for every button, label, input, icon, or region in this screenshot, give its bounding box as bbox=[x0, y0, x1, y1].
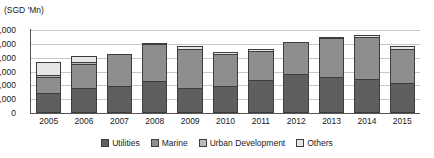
bar-segment-marine[interactable] bbox=[142, 44, 167, 80]
legend-item-others[interactable]: Others bbox=[296, 138, 333, 148]
bar-group[interactable] bbox=[248, 49, 273, 113]
x-tick-label: 2012 bbox=[279, 115, 314, 127]
bar-segment-marine[interactable] bbox=[354, 37, 379, 79]
y-tick-label: 4,000 bbox=[0, 81, 16, 90]
y-tick-label: 6,000 bbox=[0, 68, 16, 77]
x-axis-ticks: 2005200620072008200920102011201220132014… bbox=[31, 115, 420, 129]
bar-segment-others[interactable] bbox=[36, 62, 61, 74]
legend-swatch-icon bbox=[101, 139, 109, 147]
legend-item-marine[interactable]: Marine bbox=[151, 138, 188, 148]
bar-segment-marine[interactable] bbox=[283, 42, 308, 74]
bar-segment-marine[interactable] bbox=[390, 49, 415, 84]
x-tick-label: 2006 bbox=[66, 115, 101, 127]
bar-segment-marine[interactable] bbox=[71, 64, 96, 88]
plot-area bbox=[31, 30, 420, 113]
x-tick-label: 2009 bbox=[172, 115, 207, 127]
bar-segment-utilities[interactable] bbox=[71, 88, 96, 113]
x-tick-label: 2005 bbox=[31, 115, 66, 127]
bar-segment-marine[interactable] bbox=[248, 51, 273, 80]
legend-label: Urban Development bbox=[210, 138, 286, 148]
bar-segment-utilities[interactable] bbox=[177, 88, 202, 113]
bar-segment-marine[interactable] bbox=[319, 38, 344, 77]
bar-segment-utilities[interactable] bbox=[142, 81, 167, 114]
bar-group[interactable] bbox=[71, 56, 96, 113]
bar-segment-utilities[interactable] bbox=[213, 86, 238, 113]
bars-layer bbox=[31, 30, 420, 113]
bar-segment-utilities[interactable] bbox=[390, 83, 415, 113]
bar-segment-marine[interactable] bbox=[36, 77, 61, 94]
bar-segment-utilities[interactable] bbox=[107, 86, 132, 113]
bar-segment-utilities[interactable] bbox=[283, 74, 308, 113]
y-tick-label: 2,000 bbox=[0, 95, 16, 104]
bar-segment-marine[interactable] bbox=[107, 54, 132, 87]
y-axis-unit-label: (SGD 'Mn) bbox=[4, 5, 44, 15]
bar-group[interactable] bbox=[36, 62, 61, 113]
bar-segment-marine[interactable] bbox=[213, 54, 238, 85]
x-tick-label: 2007 bbox=[102, 115, 137, 127]
x-tick-label: 2015 bbox=[385, 115, 420, 127]
legend-item-utilities[interactable]: Utilities bbox=[101, 138, 139, 148]
stacked-bar-chart: (SGD 'Mn) 200520062007200820092010201120… bbox=[0, 0, 434, 158]
bar-segment-utilities[interactable] bbox=[248, 80, 273, 113]
x-tick-label: 2013 bbox=[314, 115, 349, 127]
x-tick-label: 2010 bbox=[208, 115, 243, 127]
bar-group[interactable] bbox=[354, 35, 379, 113]
bar-group[interactable] bbox=[107, 54, 132, 113]
bar-group[interactable] bbox=[177, 46, 202, 113]
y-tick-label: 8,000 bbox=[0, 54, 16, 63]
legend-label: Marine bbox=[162, 138, 188, 148]
legend-label: Others bbox=[307, 138, 333, 148]
y-tick-label: 12,000 bbox=[0, 26, 16, 35]
x-tick-label: 2008 bbox=[137, 115, 172, 127]
bar-segment-utilities[interactable] bbox=[36, 93, 61, 113]
legend-label: Utilities bbox=[112, 138, 139, 148]
legend-swatch-icon bbox=[199, 139, 207, 147]
y-tick-label: 10,000 bbox=[0, 40, 16, 49]
bar-group[interactable] bbox=[319, 37, 344, 113]
x-tick-label: 2014 bbox=[349, 115, 384, 127]
y-tick-label: 0 bbox=[0, 109, 16, 118]
bar-group[interactable] bbox=[390, 46, 415, 113]
bar-segment-utilities[interactable] bbox=[319, 77, 344, 113]
chart-legend: UtilitiesMarineUrban DevelopmentOthers bbox=[0, 138, 434, 148]
legend-swatch-icon bbox=[151, 139, 159, 147]
legend-swatch-icon bbox=[296, 139, 304, 147]
bar-group[interactable] bbox=[283, 42, 308, 113]
bar-group[interactable] bbox=[142, 43, 167, 113]
x-axis-line bbox=[30, 113, 420, 114]
bar-segment-marine[interactable] bbox=[177, 49, 202, 88]
legend-item-urban-development[interactable]: Urban Development bbox=[199, 138, 286, 148]
bar-group[interactable] bbox=[213, 52, 238, 113]
x-tick-label: 2011 bbox=[243, 115, 278, 127]
bar-segment-utilities[interactable] bbox=[354, 79, 379, 113]
